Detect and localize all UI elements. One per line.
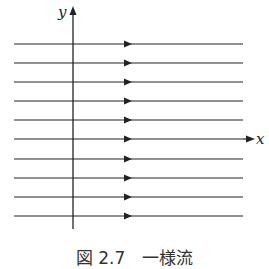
flow-arrow-icon [124,41,132,48]
flow-arrow-icon [124,175,132,182]
flow-arrow-icon [124,136,132,143]
flow-arrow-icon [124,98,132,105]
flow-arrow-icon [124,213,132,220]
flow-arrow-icon [124,194,132,201]
streamlines [14,44,243,216]
figure-caption: 図 2.7 一様流 [0,244,269,269]
flow-arrow-icon [124,117,132,124]
flow-arrows [124,41,132,220]
flow-arrow-icon [124,156,132,163]
flow-arrow-icon [124,60,132,67]
y-axis-label: y [57,3,67,21]
x-axis-arrow-icon [246,136,255,143]
flow-arrow-icon [124,79,132,86]
y-axis-arrow-icon [70,6,77,15]
x-axis-label: x [256,130,265,148]
